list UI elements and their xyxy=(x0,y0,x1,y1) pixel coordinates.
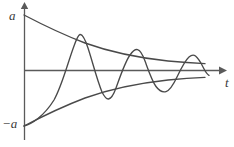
x-axis-label-t: t xyxy=(225,76,229,89)
lower-envelope-curve xyxy=(24,77,205,126)
x-axis xyxy=(24,67,227,75)
y-axis-label-negative-a: −a xyxy=(2,117,17,130)
x-axis-arrowhead xyxy=(219,67,227,75)
damped-oscillation-figure: a −a t xyxy=(0,0,234,147)
upper-envelope-curve xyxy=(24,15,205,64)
y-axis-arrowhead xyxy=(21,2,28,9)
plot-canvas xyxy=(0,0,234,147)
y-axis-label-a: a xyxy=(9,9,16,22)
